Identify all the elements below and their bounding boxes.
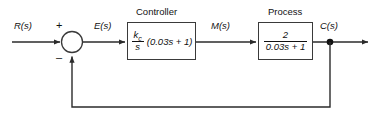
controller-transfer-function: kc s (0.03s + 1) xyxy=(131,30,193,52)
label-manipulated-signal: M(s) xyxy=(211,20,230,31)
controller-denominator: s xyxy=(133,42,142,52)
summing-junction xyxy=(62,32,83,53)
block-diagram: R(s) E(s) M(s) C(s) + – Controller kc s … xyxy=(0,0,380,129)
controller-zero-term: (0.03s + 1) xyxy=(145,36,193,47)
controller-title: Controller xyxy=(136,6,177,17)
controller-numerator: kc xyxy=(132,30,144,40)
process-denominator: 0.03s + 1 xyxy=(264,42,307,52)
label-input-signal: R(s) xyxy=(14,20,32,31)
label-output-signal: C(s) xyxy=(320,20,338,31)
process-transfer-function: 2 0.03s + 1 xyxy=(263,30,308,52)
controller-block: kc s (0.03s + 1) xyxy=(127,22,196,60)
process-block: 2 0.03s + 1 xyxy=(258,22,313,60)
process-title: Process xyxy=(268,6,302,17)
process-numerator: 2 xyxy=(281,30,290,40)
controller-fraction: kc s xyxy=(132,30,144,52)
summing-minus-sign: – xyxy=(56,52,62,63)
summing-plus-sign: + xyxy=(56,20,62,31)
process-fraction: 2 0.03s + 1 xyxy=(264,30,307,52)
label-error-signal: E(s) xyxy=(94,20,111,31)
